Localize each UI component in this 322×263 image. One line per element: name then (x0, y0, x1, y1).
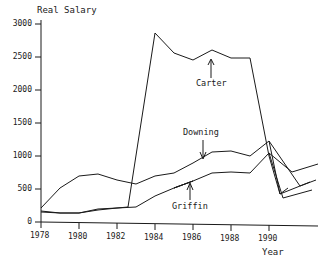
x-tick-label-1988: 1988 (220, 234, 239, 243)
series-tail-crossings-2 (269, 153, 318, 172)
chart-canvas (0, 0, 322, 263)
x-axis-title: Year (262, 247, 284, 257)
series-label-downing: Downing (183, 127, 219, 137)
chart-figure: Real Salary Year 3000 2500 2000 1500 100… (0, 0, 322, 263)
y-tick-label-500: 500 (0, 184, 32, 193)
series-label-carter: Carter (196, 78, 227, 88)
axis-lines (41, 20, 318, 226)
y-axis-ticks (35, 24, 41, 222)
y-tick-label-1500: 1500 (0, 118, 32, 127)
x-tick-label-1982: 1982 (106, 232, 125, 241)
annotation-arrow-carter (208, 59, 214, 78)
x-tick-label-1990: 1990 (258, 234, 277, 243)
y-tick-label-3000: 3000 (0, 19, 32, 28)
annotation-arrow-griffin (187, 183, 193, 200)
series-line-carter (41, 33, 288, 213)
x-tick-label-1978: 1978 (30, 231, 49, 240)
series-line-downing (41, 141, 310, 208)
x-tick-label-1984: 1984 (144, 233, 163, 242)
y-tick-label-0: 0 (0, 217, 32, 226)
series-label-griffin: Griffin (172, 201, 208, 211)
x-tick-label-1980: 1980 (68, 232, 87, 241)
y-tick-label-2500: 2500 (0, 52, 32, 61)
y-tick-label-2000: 2000 (0, 85, 32, 94)
x-tick-label-1986: 1986 (182, 233, 201, 242)
y-axis-title: Real Salary (37, 5, 97, 15)
y-tick-label-1000: 1000 (0, 151, 32, 160)
